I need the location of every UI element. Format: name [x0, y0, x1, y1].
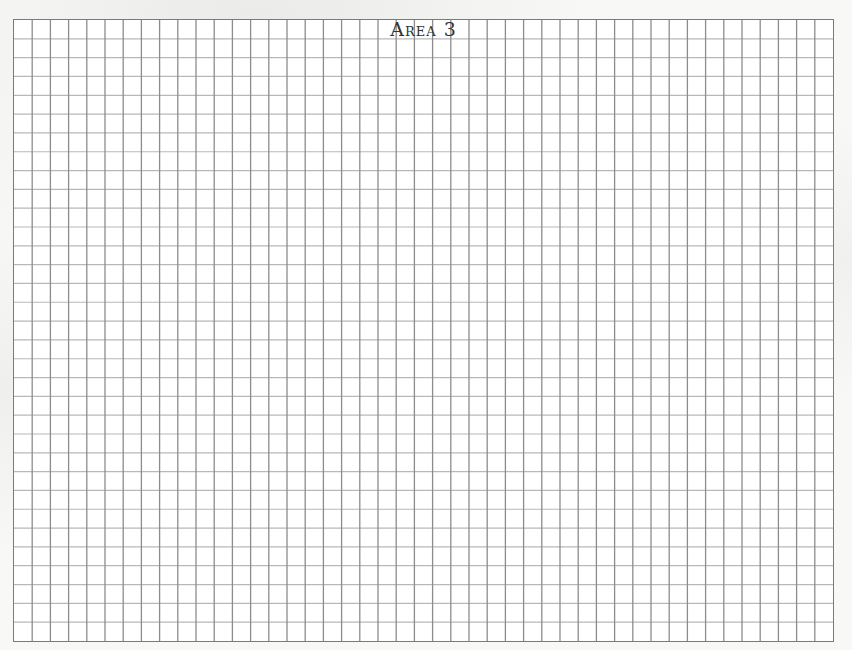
page: Area 3: [0, 0, 852, 650]
grid-sheet: Area 3: [13, 19, 834, 642]
grid-lines: [14, 20, 833, 641]
